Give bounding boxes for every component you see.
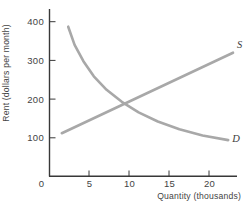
y-tick-label: 200 <box>27 94 44 105</box>
supply-demand-chart: 5101520100200300400SD Rent (dollars per … <box>0 0 249 210</box>
y-axis-title: Rent (dollars per month) <box>1 24 11 121</box>
y-tick-label: 300 <box>27 55 44 66</box>
chart-plot-area: 5101520100200300400SD <box>27 9 243 189</box>
supply-curve-label: S <box>237 39 243 50</box>
x-tick-label: 10 <box>124 178 135 189</box>
x-tick-label: 5 <box>87 178 93 189</box>
y-tick-label: 100 <box>27 132 44 143</box>
demand-curve <box>68 27 228 140</box>
x-tick-label: 15 <box>164 178 175 189</box>
x-axis-title: Quantity (thousands) <box>157 191 241 201</box>
demand-curve-label: D <box>231 133 240 144</box>
y-tick-label: 400 <box>27 16 44 27</box>
figure-canvas: 5101520100200300400SD Rent (dollars per … <box>0 0 249 210</box>
supply-curve <box>62 53 233 134</box>
x-tick-label: 20 <box>204 178 215 189</box>
origin-tick-label: 0 <box>39 178 45 189</box>
